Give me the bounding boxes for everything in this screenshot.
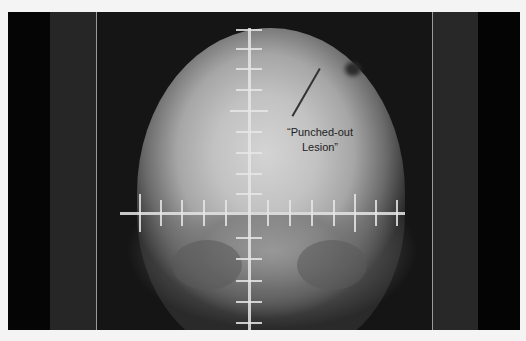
crosshair-vertical-tick [236,29,262,31]
crosshair-horizontal-tick [203,200,205,226]
crosshair-horizontal-tick [225,200,227,226]
crosshair-vertical-tick [236,258,262,260]
left-gray-margin [50,12,96,330]
right-gray-margin [433,12,478,330]
crosshair-horizontal-tick [396,200,398,226]
xray-image: “Punched-out Lesion” [97,12,432,330]
right-black-margin [478,12,520,330]
xray-frame: “Punched-out Lesion” [8,12,520,330]
crosshair-horizontal-tick [139,194,141,232]
crosshair-horizontal-tick [311,200,313,226]
crosshair-vertical-tick [230,110,268,112]
punched-out-lesion [345,62,361,76]
crosshair-vertical-line [248,28,251,330]
crosshair-horizontal-tick [375,200,377,226]
crosshair-horizontal-tick [160,200,162,226]
crosshair-horizontal-line [120,212,405,215]
right-orbit [297,240,367,290]
left-black-margin [8,12,50,330]
crosshair-vertical-tick [236,237,262,239]
crosshair-vertical-tick [236,48,262,50]
crosshair-vertical-tick [236,152,262,154]
crosshair-horizontal-tick [267,200,269,226]
facial-bones [127,212,417,330]
crosshair-vertical-tick [236,173,262,175]
annotation-label-line1: “Punched-out [265,125,375,140]
left-orbit [172,240,242,290]
crosshair-vertical-tick [236,193,262,195]
annotation-label-line2: Lesion” [265,140,375,155]
crosshair-horizontal-tick [333,200,335,226]
crosshair-horizontal-tick [181,200,183,226]
crosshair-vertical-tick [236,280,262,282]
crosshair-vertical-tick [236,68,262,70]
crosshair-vertical-tick [236,89,262,91]
crosshair-horizontal-tick [354,194,356,232]
crosshair-vertical-tick [236,131,262,133]
crosshair-horizontal-tick [289,200,291,226]
crosshair-vertical-tick [236,301,262,303]
crosshair-vertical-tick [236,322,262,324]
annotation-label: “Punched-out Lesion” [265,125,375,155]
